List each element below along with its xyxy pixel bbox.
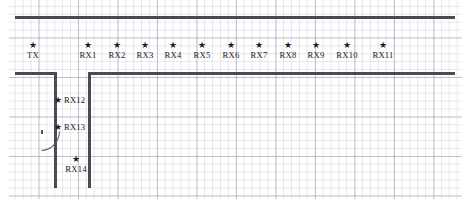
star-icon: ★ (29, 41, 37, 50)
node-label: RX7 (251, 51, 268, 60)
door-leaf-icon (41, 130, 43, 134)
star-icon: ★ (343, 41, 351, 50)
star-icon: ★ (227, 41, 235, 50)
node-label: RX14 (65, 165, 86, 174)
node-label: RX12 (64, 96, 85, 105)
node-label: RX6 (223, 51, 240, 60)
wall-corridor-bottom-left (15, 72, 56, 75)
wall-room-right-wall (88, 72, 91, 188)
star-icon: ★ (284, 41, 292, 50)
star-icon: ★ (54, 123, 62, 132)
node-label: RX9 (308, 51, 325, 60)
node-label: RX2 (109, 51, 126, 60)
star-icon: ★ (113, 41, 121, 50)
grid-left-margin (0, 0, 9, 199)
star-icon: ★ (255, 41, 263, 50)
star-icon: ★ (379, 41, 387, 50)
star-icon: ★ (84, 41, 92, 50)
star-icon: ★ (312, 41, 320, 50)
node-label: RX3 (137, 51, 154, 60)
star-icon: ★ (169, 41, 177, 50)
wall-corridor-bottom-right (88, 72, 455, 75)
star-icon: ★ (141, 41, 149, 50)
grid-right-margin (462, 0, 471, 199)
node-label: RX13 (64, 123, 85, 132)
node-label: RX1 (80, 51, 97, 60)
node-label: RX10 (336, 51, 357, 60)
wall-corridor-top (15, 16, 455, 19)
node-label: RX11 (372, 51, 393, 60)
node-label: RX5 (194, 51, 211, 60)
node-label: RX4 (165, 51, 182, 60)
node-label: RX8 (280, 51, 297, 60)
star-icon: ★ (72, 155, 80, 164)
star-icon: ★ (198, 41, 206, 50)
star-icon: ★ (54, 96, 62, 105)
node-label: TX (27, 51, 39, 60)
floorplan-figure: ★TX★RX1★RX2★RX3★RX4★RX5★RX6★RX7★RX8★RX9★… (0, 0, 471, 199)
